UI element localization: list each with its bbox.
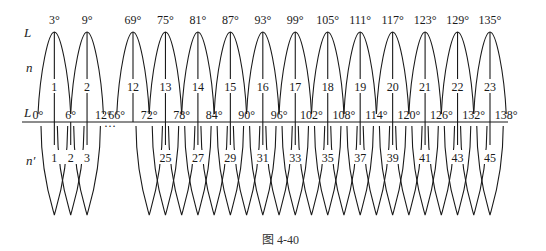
valley-L-label: 66° (108, 108, 125, 122)
n-prime-number: 3 (84, 151, 90, 165)
n-prime-number: 43 (452, 151, 464, 165)
valley-labels: 0°6°12°66°72°78°84°90°96°102°108°114°120… (33, 108, 518, 122)
n-prime-label: n′ (26, 153, 36, 168)
top-L-label: L (23, 25, 31, 40)
n-number: 15 (224, 80, 236, 94)
n-prime-number: 39 (387, 151, 399, 165)
n-prime-number: 29 (224, 151, 236, 165)
n-pattern-diagram: L n L n′ … 3°19°269°1275°1381°1487°1593°… (0, 0, 546, 251)
mid-L-label: L (23, 105, 31, 120)
lobe (428, 126, 454, 215)
n-prime-number: 31 (257, 151, 269, 165)
peak-L-label: 99° (287, 13, 304, 27)
valley-L-label: 72° (141, 108, 158, 122)
lobe (201, 126, 227, 215)
valley-L-label: 132° (462, 108, 485, 122)
n-prime-number: 35 (322, 151, 334, 165)
valley-L-label: 126° (430, 108, 453, 122)
n-number: 16 (257, 80, 269, 94)
peak-L-label: 69° (125, 13, 142, 27)
n-label: n (26, 60, 33, 75)
valley-L-label: 84° (206, 108, 223, 122)
lobe (233, 126, 259, 215)
peak-L-label: 129° (446, 13, 469, 27)
lobe (363, 126, 389, 215)
n-number: 22 (452, 80, 464, 94)
bottom-lobes: 1232527293133353739414345 (41, 122, 503, 215)
peak-labels: 3°19°269°1275°1381°1487°1593°1699°17105°… (46, 13, 501, 94)
n-prime-number: 1 (51, 151, 57, 165)
valley-L-label: 6° (65, 108, 76, 122)
peak-L-label: 123° (414, 13, 437, 27)
peak-L-label: 135° (479, 13, 502, 27)
n-prime-number: 41 (419, 151, 431, 165)
peak-L-label: 105° (316, 13, 339, 27)
valley-L-label: 102° (300, 108, 323, 122)
valley-L-label: 90° (238, 108, 255, 122)
n-number: 12 (127, 80, 139, 94)
n-prime-number: 45 (484, 151, 496, 165)
peak-L-label: 75° (157, 13, 174, 27)
n-number: 2 (84, 80, 90, 94)
valley-L-label: 138° (495, 108, 518, 122)
valley-L-label: 96° (271, 108, 288, 122)
n-number: 18 (322, 80, 334, 94)
peak-L-label: 93° (254, 13, 271, 27)
lobe (168, 126, 194, 215)
lobe (396, 126, 422, 215)
n-prime-number: 25 (159, 151, 171, 165)
valley-L-label: 0° (33, 108, 44, 122)
n-number: 19 (354, 80, 366, 94)
valley-L-label: 120° (397, 108, 420, 122)
n-number: 1 (51, 80, 57, 94)
peak-L-label: 117° (381, 13, 404, 27)
peak-L-label: 9° (82, 13, 93, 27)
n-number: 13 (159, 80, 171, 94)
valley-L-label: 108° (333, 108, 356, 122)
figure-caption: 图 4-40 (262, 233, 299, 247)
n-prime-number: 2 (68, 151, 74, 165)
peak-L-label: 111° (349, 13, 371, 27)
lobe (461, 126, 487, 215)
peak-L-label: 3° (49, 13, 60, 27)
n-prime-number: 33 (289, 151, 301, 165)
lobe (331, 126, 357, 215)
peak-L-label: 81° (190, 13, 207, 27)
n-number: 14 (192, 80, 204, 94)
row-labels: L n L n′ (23, 25, 36, 168)
n-number: 23 (484, 80, 496, 94)
lobe (298, 126, 324, 215)
valley-L-label: 114° (365, 108, 388, 122)
n-number: 21 (419, 80, 431, 94)
n-prime-number: 37 (354, 151, 366, 165)
lobe (266, 126, 292, 215)
lobe (136, 126, 162, 215)
peak-L-label: 87° (222, 13, 239, 27)
n-prime-number: 27 (192, 151, 204, 165)
valley-L-label: 78° (173, 108, 190, 122)
n-number: 20 (387, 80, 399, 94)
n-number: 17 (289, 80, 301, 94)
